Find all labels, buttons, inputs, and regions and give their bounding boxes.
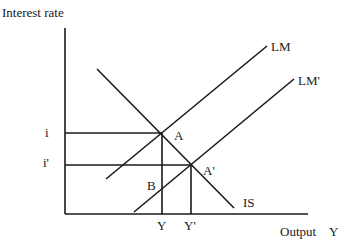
lm-prime-curve (134, 79, 294, 212)
i-prime-tick-label: i' (43, 155, 49, 170)
is-label: IS (243, 195, 255, 210)
islm-diagram: Interest rate LM LM' IS i i' A A' B Y Y'… (0, 0, 349, 252)
y-tick-label: Y (157, 218, 167, 233)
point-a-prime-label: A' (203, 163, 215, 178)
point-b-label: B (147, 178, 156, 193)
x-axis-symbol: Y (329, 224, 339, 239)
i-tick-label: i (45, 125, 49, 140)
x-axis-label: Output (280, 224, 317, 239)
y-prime-tick-label: Y' (184, 218, 196, 233)
y-axis-label: Interest rate (2, 5, 64, 20)
lm-prime-label: LM' (298, 73, 320, 88)
point-a-label: A (174, 128, 184, 143)
lm-label: LM (271, 39, 291, 54)
